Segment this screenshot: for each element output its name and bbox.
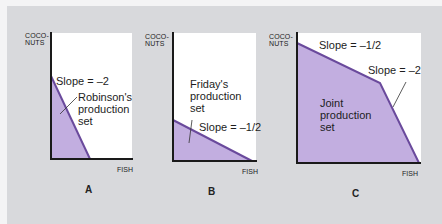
panel-c-y-label-line1: COCO- xyxy=(269,33,293,40)
panel-b-set-label-line3: set xyxy=(190,102,205,114)
panel-b-slope-label: Slope = –1/2 xyxy=(199,121,261,133)
panel-a-set-label-line2: production xyxy=(78,103,129,115)
panel-c-letter: C xyxy=(352,188,359,199)
panel-b-letter: B xyxy=(208,186,215,197)
panel-c-plot xyxy=(296,32,421,164)
panel-c-set-label-line3: set xyxy=(320,121,335,133)
panel-b-x-label: FISH xyxy=(242,168,258,175)
panel-c-set-label-line1: Joint xyxy=(320,97,343,109)
panel-b-y-label-line1: COCO- xyxy=(145,33,169,40)
panel-a-set-label-line3: set xyxy=(78,115,93,127)
panel-b-y-label-line2: NUTS xyxy=(145,40,164,47)
panel-a-x-label: FISH xyxy=(117,166,133,173)
production-sets-figure xyxy=(0,0,442,224)
panel-a-slope-label: Slope = –2 xyxy=(56,75,109,87)
panel-a-y-label-line2: NUTS xyxy=(25,39,44,46)
panel-a-letter: A xyxy=(85,184,92,195)
panel-c-slope-label-2: Slope = –2 xyxy=(368,64,421,76)
panel-c-slope-label-1: Slope = –1/2 xyxy=(319,39,381,51)
panel-a-y-label-line1: COCO- xyxy=(25,32,49,39)
panel-b-set-label-line1: Friday's xyxy=(190,78,228,90)
panel-a-set-label-line1: Robinson's xyxy=(78,91,132,103)
panel-c-x-label: FISH xyxy=(402,170,418,177)
panel-b-set-label-line2: production xyxy=(190,90,241,102)
panel-c-y-label-line2: NUTS xyxy=(269,40,288,47)
panel-c-set-label-line2: production xyxy=(320,109,371,121)
